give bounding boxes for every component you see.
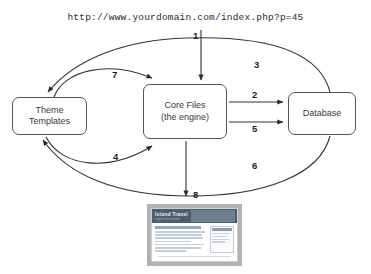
node-theme-templates: Theme Templates [12, 97, 87, 135]
edge-label-5: 5 [252, 124, 257, 134]
thumbnail-banner: Island Travel explore the islands [152, 209, 237, 223]
node-database: Database [288, 92, 356, 135]
thumbnail-text-line [155, 244, 204, 246]
edge-label-1: 1 [193, 31, 198, 41]
edge-label-6: 6 [252, 161, 257, 171]
diagram-canvas: http://www.yourdomain.com/index.php?p=45 [0, 0, 371, 274]
thumbnail-banner-photo [191, 210, 235, 222]
thumbnail-sidebar-heading [212, 228, 232, 231]
thumbnail-sidebar-line [212, 241, 225, 242]
edge-4-path [46, 137, 152, 163]
node-core-files: Core Files (the engine) [143, 84, 227, 139]
thumbnail-article-heading [155, 226, 201, 229]
node-database-label: Database [303, 108, 342, 120]
thumbnail-text-line [155, 234, 202, 236]
thumbnail-footer [158, 256, 231, 257]
edge-label-4: 4 [113, 152, 118, 162]
thumbnail-text-line [155, 231, 205, 233]
thumbnail-sidebar [210, 226, 234, 253]
thumbnail-text-line [155, 250, 186, 252]
rendered-page-thumbnail: Island Travel explore the islands [147, 204, 242, 266]
thumbnail-text-line [155, 241, 191, 243]
thumbnail-main-column [155, 226, 207, 253]
node-theme-templates-label: Theme Templates [29, 105, 70, 128]
thumbnail-sidebar-line [212, 233, 230, 234]
edge-label-7: 7 [112, 70, 117, 80]
edge-label-2: 2 [252, 90, 257, 100]
thumbnail-sidebar-line [212, 239, 229, 240]
thumbnail-text-line [155, 247, 201, 249]
thumbnail-site-tagline: explore the islands [155, 217, 180, 221]
edge-label-3: 3 [254, 60, 259, 70]
thumbnail-sidebar-line [212, 236, 227, 237]
thumbnail-page: Island Travel explore the islands [151, 208, 238, 262]
node-core-files-label: Core Files (the engine) [161, 100, 209, 123]
edge-label-8: 8 [193, 190, 198, 200]
thumbnail-body [152, 223, 237, 256]
thumbnail-text-line [155, 237, 203, 239]
